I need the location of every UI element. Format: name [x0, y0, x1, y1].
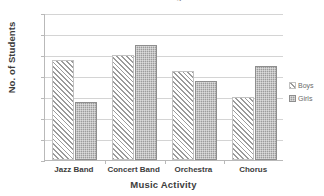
x-axis-title: Music Activity — [44, 179, 283, 190]
bar-boys — [172, 71, 194, 160]
plot-area: 0481216202428 — [44, 14, 283, 161]
bar-group — [165, 14, 225, 160]
x-axis-tick-label: Orchestra — [164, 165, 224, 174]
bar-chart: Students in Music Programs No. of Studen… — [0, 0, 324, 196]
legend-swatch-girls-icon — [289, 95, 296, 102]
bar-boys — [112, 55, 134, 160]
x-axis-tick-label: Jazz Band — [44, 165, 104, 174]
bar-girls — [135, 45, 157, 161]
bar-group — [105, 14, 165, 160]
y-axis-tick — [41, 161, 45, 162]
bar-girls — [255, 66, 277, 161]
bar-boys — [232, 97, 254, 160]
legend-label-girls: Girls — [298, 95, 312, 102]
chart-title: Students in Music Programs — [0, 0, 290, 1]
y-axis-title: No. of Students — [6, 13, 17, 103]
x-axis-tick — [105, 160, 106, 164]
x-axis-tick-label: Chorus — [223, 165, 283, 174]
x-axis-tick-label: Concert Band — [104, 165, 164, 174]
bar-girls — [195, 81, 217, 160]
x-axis-tick — [165, 160, 166, 164]
legend-label-boys: Boys — [298, 82, 314, 89]
bar-group — [45, 14, 105, 160]
bar-boys — [52, 60, 74, 160]
x-axis-tick — [224, 160, 225, 164]
bar-girls — [75, 102, 97, 160]
chart-legend: Boys Girls — [289, 79, 324, 105]
legend-item-girls: Girls — [289, 92, 324, 105]
legend-item-boys: Boys — [289, 79, 324, 92]
legend-swatch-boys-icon — [289, 82, 296, 89]
bar-group — [224, 14, 284, 160]
